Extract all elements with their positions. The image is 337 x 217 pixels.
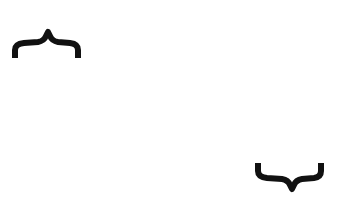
- top-brace: [15, 32, 78, 58]
- bottom-brace: [258, 163, 321, 189]
- spin-chain-diagram: [0, 0, 337, 217]
